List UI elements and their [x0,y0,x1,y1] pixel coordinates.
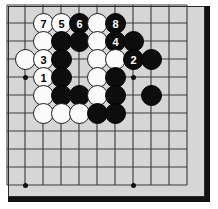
move-number: 7 [40,18,46,30]
move-number: 2 [130,54,136,66]
move-number: 3 [40,54,46,66]
move-number: 5 [58,18,64,30]
move-number: 4 [112,36,118,48]
move-number: 8 [112,18,118,30]
move-number: 1 [40,72,46,84]
star-point [131,75,136,80]
move-number: 6 [76,18,82,30]
stone-black [141,49,162,70]
star-point [23,183,28,188]
stone-black [141,85,162,106]
stone-black [105,103,126,124]
star-point [23,75,28,80]
go-board-diagram: 75684321 [0,0,218,209]
star-point [131,183,136,188]
